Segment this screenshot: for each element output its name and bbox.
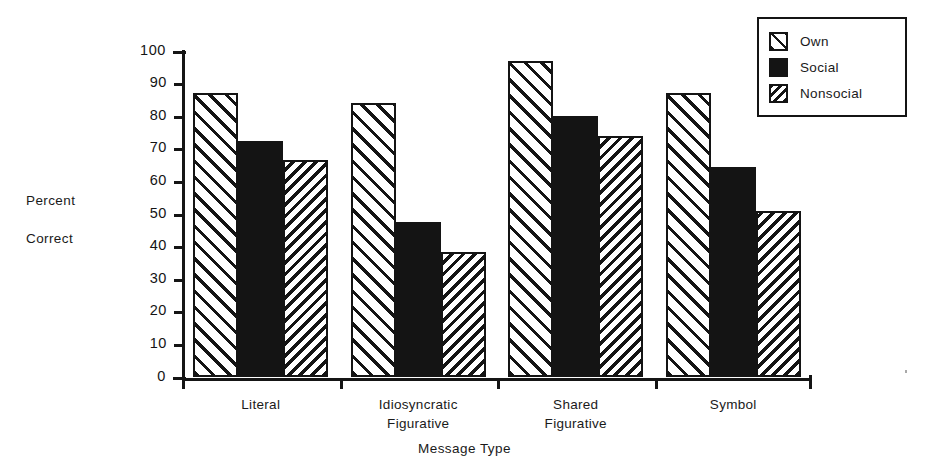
y-axis-tick-label: 60: [150, 172, 167, 189]
y-axis-tick-label: 50: [150, 205, 167, 222]
y-axis-tick: 10: [174, 344, 185, 347]
legend-item-label: Nonsocial: [800, 86, 862, 101]
y-axis-tick: 100: [173, 51, 186, 54]
bar-social-3: [711, 167, 756, 377]
legend-item-label: Own: [800, 34, 829, 49]
x-axis-tick: [182, 375, 185, 389]
x-axis-category-label-line: Symbol: [655, 395, 813, 414]
bar-own-0: [193, 93, 238, 377]
x-axis-tick: [497, 378, 500, 389]
bar-social-2: [553, 116, 598, 377]
x-axis-tick: [340, 378, 343, 389]
y-axis-tick: 20: [174, 311, 185, 314]
bar-social-1: [396, 222, 441, 377]
x-axis-category-label: IdiosyncraticFigurative: [340, 395, 498, 433]
y-axis-tick: 30: [174, 279, 185, 282]
bar-own-1: [351, 103, 396, 377]
legend-item: Social: [769, 54, 895, 80]
y-axis-tick-label: 0: [157, 368, 166, 385]
legend-item: Nonsocial: [769, 80, 895, 106]
legend-item-label: Social: [800, 60, 839, 75]
hatch-back-swatch: [769, 84, 788, 103]
x-axis-category-label-line: Figurative: [340, 414, 498, 433]
legend-box: Own Social Nonsocial: [757, 17, 907, 117]
y-axis-tick-label: 70: [150, 139, 167, 156]
bar-social-0: [238, 141, 283, 377]
y-axis-tick-label: 90: [150, 74, 167, 91]
y-axis-tick: 40: [174, 246, 185, 249]
bar-nonsocial-0: [283, 160, 328, 377]
scan-artifact-speck: [905, 370, 907, 373]
y-axis-tick-label: 30: [150, 270, 167, 287]
y-axis-label-line-1: Percent: [26, 191, 136, 210]
y-axis-tick-label: 10: [150, 335, 167, 352]
y-axis-tick: 90: [174, 83, 185, 86]
y-axis-tick: 80: [174, 116, 185, 119]
x-axis-category-label-line: Literal: [182, 395, 340, 414]
bar-nonsocial-1: [441, 252, 486, 378]
bar-nonsocial-3: [756, 211, 801, 377]
bar-own-3: [666, 93, 711, 377]
y-axis-tick-label: 40: [150, 237, 167, 254]
x-axis-category-label: SharedFigurative: [497, 395, 655, 433]
y-axis-tick: 60: [174, 181, 185, 184]
y-axis-tick-label: 20: [150, 302, 167, 319]
y-axis-label: Percent Correct: [26, 172, 136, 267]
x-axis-category-label-line: Shared: [497, 395, 655, 414]
legend-item: Own: [769, 28, 895, 54]
x-axis-tick: [655, 378, 658, 389]
bar-nonsocial-2: [598, 136, 643, 377]
y-axis-tick: 70: [174, 148, 185, 151]
x-axis-category-label: Literal: [182, 395, 340, 414]
solid-black-swatch: [769, 58, 788, 77]
x-axis-category-label: Symbol: [655, 395, 813, 414]
x-axis-category-label-line: Figurative: [497, 414, 655, 433]
y-axis-label-line-2: Correct: [26, 229, 136, 248]
x-axis-category-label-line: Idiosyncratic: [340, 395, 498, 414]
y-axis-tick: 50: [174, 214, 185, 217]
x-axis-tick: [809, 375, 812, 389]
bar-own-2: [508, 61, 553, 377]
y-axis-tick-label: 80: [150, 107, 167, 124]
hatch-forward-swatch: [769, 32, 788, 51]
plot-area: 0102030405060708090100: [182, 50, 812, 380]
y-axis-tick-label: 100: [140, 42, 166, 59]
x-axis-title: Message Type: [0, 441, 929, 456]
bar-chart-figure: Percent Correct 0102030405060708090100 L…: [0, 0, 929, 475]
